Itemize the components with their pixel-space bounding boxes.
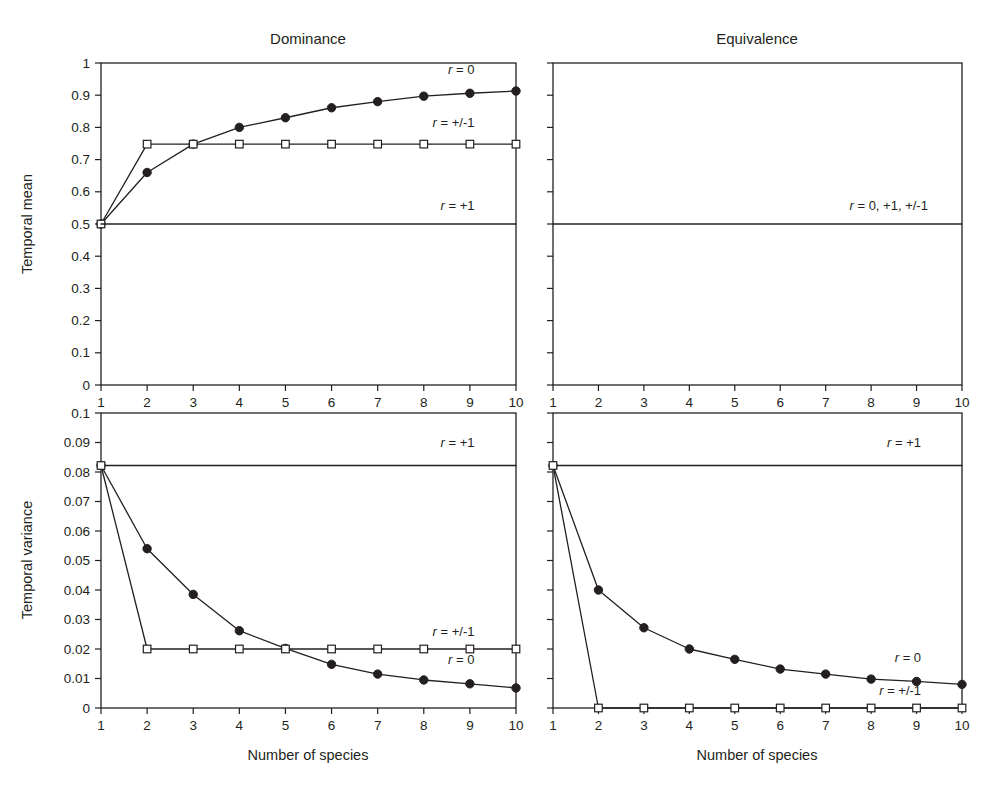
y-tick-label: 0.8 [71,120,90,135]
data-point-filled [512,684,520,692]
x-axis-label-right: Number of species [697,747,818,763]
data-point-open [328,140,336,148]
data-point-filled [420,92,428,100]
data-point-open [958,704,966,712]
data-point-filled [512,87,520,95]
data-point-filled [466,89,474,97]
data-point-open [143,140,151,148]
y-tick-label: 0.4 [71,249,90,264]
data-point-open [595,704,603,712]
y-tick-label: 0.06 [64,524,90,539]
x-tick-label: 2 [143,718,151,733]
series-annotation-label: r = 0 [895,650,921,665]
x-tick-label: 7 [374,718,382,733]
data-point-open [822,704,830,712]
data-point-open [236,645,244,653]
x-tick-label: 10 [954,395,969,410]
x-axis-label-left: Number of species [248,747,369,763]
x-tick-label: 10 [954,718,969,733]
x-tick-label: 8 [420,395,428,410]
y-tick-label: 0.3 [71,281,90,296]
data-point-filled [327,104,335,112]
data-point-open [867,704,875,712]
x-tick-label: 1 [549,395,557,410]
data-point-open [189,645,197,653]
x-tick-label: 8 [867,718,875,733]
x-tick-label: 6 [328,395,336,410]
data-point-filled [373,670,381,678]
data-point-open [512,140,520,148]
x-tick-label: 6 [776,718,784,733]
data-point-open [549,462,557,470]
y-tick-label: 0.05 [64,553,90,568]
series-annotation-label: r = 0 [448,62,474,77]
y-tick-label: 0.1 [71,406,90,421]
data-point-open [282,645,290,653]
y-axis-label-temporal-mean: Temporal mean [19,174,35,274]
data-point-open [143,645,151,653]
x-tick-label: 1 [97,395,105,410]
x-tick-label: 4 [686,718,694,733]
x-tick-label: 8 [420,718,428,733]
y-tick-label: 0 [82,378,90,393]
data-point-filled [640,624,648,632]
series-annotation-label: r = +/-1 [433,115,475,130]
x-tick-label: 7 [374,395,382,410]
data-point-filled [466,680,474,688]
data-point-filled [189,590,197,598]
x-tick-label: 9 [913,395,921,410]
x-tick-label: 9 [466,395,474,410]
series-annotation-label: r = +1 [441,198,475,213]
data-point-filled [958,680,966,688]
x-tick-label: 3 [189,718,197,733]
data-point-open [374,645,382,653]
figure-container: Dominance Equivalence Temporal mean Temp… [0,0,998,792]
x-tick-label: 5 [731,718,739,733]
x-tick-label: 7 [822,395,830,410]
data-point-open [466,140,474,148]
x-tick-label: 5 [282,395,290,410]
y-tick-label: 0.1 [71,345,90,360]
y-tick-label: 0.6 [71,184,90,199]
series-annotation-label: r = +1 [887,435,921,450]
x-tick-label: 6 [328,718,336,733]
y-axis-label-temporal-variance: Temporal variance [19,501,35,619]
x-tick-label: 10 [508,395,523,410]
data-point-open [189,140,197,148]
data-point-open [236,140,244,148]
y-tick-label: 0.07 [64,494,90,509]
data-point-filled [594,586,602,594]
data-point-open [282,140,290,148]
data-point-open [686,704,694,712]
y-tick-label: 1 [82,56,90,71]
x-tick-label: 1 [97,718,105,733]
x-tick-label: 2 [595,718,603,733]
x-tick-label: 3 [640,395,648,410]
data-point-open [420,645,428,653]
y-tick-label: 0.01 [64,671,90,686]
data-point-open [466,645,474,653]
data-point-open [374,140,382,148]
y-tick-label: 0 [82,701,90,716]
x-tick-label: 2 [595,395,603,410]
x-tick-label: 9 [466,718,474,733]
data-point-filled [685,645,693,653]
series-annotation-label: r = +/-1 [879,683,921,698]
data-point-open [420,140,428,148]
x-tick-label: 7 [822,718,830,733]
x-tick-label: 8 [867,395,875,410]
data-point-open [640,704,648,712]
x-tick-label: 2 [143,395,151,410]
data-point-filled [281,114,289,122]
data-point-filled [776,665,784,673]
x-tick-label: 5 [282,718,290,733]
series-annotation-label: r = 0, +1, +/-1 [849,198,927,213]
x-tick-label: 4 [236,395,244,410]
x-tick-label: 3 [189,395,197,410]
data-point-open [512,645,520,653]
x-tick-label: 1 [549,718,557,733]
data-point-filled [731,655,739,663]
multi-panel-chart: Dominance Equivalence Temporal mean Temp… [0,0,998,792]
y-tick-label: 0.09 [64,435,90,450]
series-annotation-label: r = +1 [441,435,475,450]
